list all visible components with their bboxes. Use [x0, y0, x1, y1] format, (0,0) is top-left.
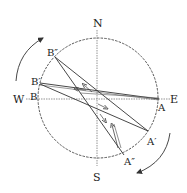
label-point-a: A: [157, 102, 166, 113]
label-east: E: [170, 93, 178, 106]
label-point-a-double-prime: A″: [123, 156, 135, 167]
label-south: S: [93, 171, 101, 184]
arrow-on-b1-a1-line: [98, 104, 106, 108]
arrow-on-b2-a2-line: [100, 114, 105, 121]
compass-diagram: N S W E B B′ B″ A A′ A″: [0, 0, 187, 193]
label-point-b: B: [30, 91, 37, 102]
label-point-b-prime: B′: [31, 76, 41, 87]
line-b2-a1: [55, 57, 148, 131]
label-point-a-prime: A′: [146, 136, 157, 147]
line-b1-a1: [40, 84, 148, 131]
line-b2-a2: [55, 57, 124, 155]
rotation-arrow-upper-left: [16, 38, 43, 81]
label-north: N: [93, 17, 103, 30]
label-point-b-double-prime: B″: [47, 47, 58, 58]
label-west: W: [13, 93, 25, 106]
